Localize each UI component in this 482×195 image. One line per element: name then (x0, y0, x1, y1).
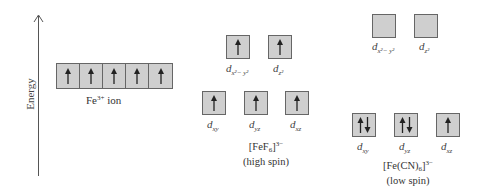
hs-dx2y2-orbital-box (226, 35, 250, 59)
spin-pair-arrows-icon (356, 117, 372, 133)
spin-up-arrow-icon (87, 68, 95, 84)
hs-dz2-orbital-box (268, 35, 292, 59)
spin-up-arrow-icon (64, 68, 72, 84)
spin-up-arrow-icon (252, 95, 260, 111)
ls-dz2-label: dz² (419, 40, 429, 55)
ls-dxz-label: dxz (441, 140, 452, 155)
energy-axis-line (38, 16, 39, 176)
spin-up-arrow-icon (110, 68, 118, 84)
spin-up-arrow-icon (157, 68, 165, 84)
fe3-ion-orbitals (56, 63, 173, 89)
spin-up-arrow-icon (210, 95, 218, 111)
orbital-box (57, 64, 80, 88)
hs-dyz-orbital-box (244, 91, 268, 115)
hs-complex-caption: [FeF6]3− (high spin) (236, 138, 296, 168)
spin-up-arrow-icon (444, 117, 452, 133)
hs-dxy-orbital-box (202, 91, 226, 115)
hs-dxz-label: dxz (290, 118, 301, 133)
ls-complex-caption: [Fe(CN)6]3− (low spin) (370, 157, 446, 187)
ls-dyz-orbital-box (394, 113, 418, 137)
hs-dx2y2-label: dx²− y² (226, 62, 248, 77)
hs-dz2-label: dz² (273, 62, 283, 77)
fe3-ion-label: Fe3+ ion (86, 92, 121, 106)
ls-dx2y2-label: dx²− y² (372, 40, 394, 55)
ls-dxy-orbital-box (352, 113, 376, 137)
hs-dxy-label: dxy (207, 118, 219, 133)
ls-complex-formula: [Fe(CN)6]3− (370, 157, 446, 175)
ls-dxy-label: dxy (357, 140, 369, 155)
spin-up-arrow-icon (276, 39, 284, 55)
ls-dyz-label: dyz (399, 140, 410, 155)
spin-up-arrow-icon (133, 68, 141, 84)
energy-axis-arrowhead-icon (33, 14, 44, 25)
hs-dyz-label: dyz (249, 118, 260, 133)
ls-dx2y2-orbital-box (372, 14, 396, 38)
ls-dz2-orbital-box (414, 14, 438, 38)
spin-pair-arrows-icon (398, 117, 414, 133)
ls-spin-label: (low spin) (370, 175, 446, 187)
hs-spin-label: (high spin) (236, 156, 296, 168)
orbital-box (126, 64, 149, 88)
spin-up-arrow-icon (234, 39, 242, 55)
orbital-box (103, 64, 126, 88)
energy-axis-label: Energy (24, 69, 36, 119)
ls-dxz-orbital-box (436, 113, 460, 137)
hs-dxz-orbital-box (285, 91, 309, 115)
spin-up-arrow-icon (293, 95, 301, 111)
orbital-box (80, 64, 103, 88)
hs-complex-formula: [FeF6]3− (236, 138, 296, 156)
orbital-box (149, 64, 172, 88)
